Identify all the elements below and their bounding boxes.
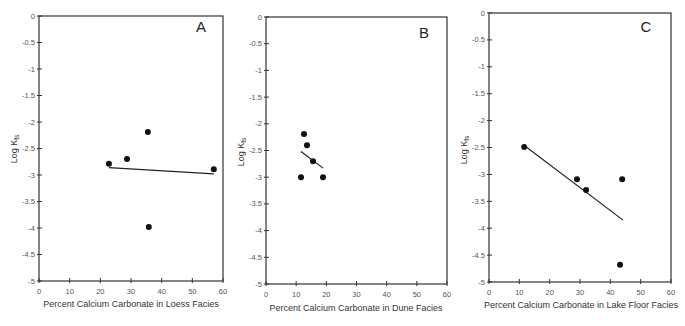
- y-tick-label: -3: [478, 170, 485, 179]
- plot-frame: [266, 17, 447, 284]
- x-tick-label: 30: [576, 288, 584, 297]
- y-tick-label: -2.5: [472, 143, 485, 152]
- chart-panel-a: A Percent Calcium Carbonate in Loess Fac…: [0, 0, 230, 326]
- data-point: [124, 156, 130, 162]
- data-point: [106, 161, 112, 167]
- chart-panel-b: B Percent Calcium Carbonate in Dune Faci…: [225, 0, 455, 326]
- y-axis-title: Log Kfs: [459, 135, 470, 164]
- x-tick-label: 60: [443, 290, 451, 299]
- y-tick-label: -4.5: [472, 251, 485, 260]
- y-tick-label: 0: [481, 9, 485, 18]
- y-tick-label: -3.5: [249, 199, 262, 208]
- data-point: [145, 129, 151, 135]
- data-point: [301, 131, 307, 137]
- x-tick-label: 20: [322, 290, 330, 299]
- x-tick-label: 0: [487, 288, 491, 297]
- y-tick-label: -3.5: [472, 197, 485, 206]
- y-tick-label: -3.5: [22, 197, 35, 206]
- data-point: [298, 174, 304, 180]
- x-tick-label: 30: [352, 290, 360, 299]
- y-tick-label: -3: [255, 173, 262, 182]
- y-tick-label: -0.5: [22, 38, 35, 47]
- chart-panel-c: C Percent Calcium Carbonate in Lake Floo…: [455, 0, 685, 326]
- y-tick-label: -4: [28, 224, 35, 233]
- panel-letter: A: [196, 18, 206, 35]
- x-tick-label: 0: [264, 290, 268, 299]
- x-tick-label: 50: [636, 288, 644, 297]
- y-tick-label: 0: [258, 13, 262, 22]
- y-tick-label: -1.5: [472, 89, 485, 98]
- x-tick-label: 40: [157, 287, 165, 296]
- x-tick-label: 0: [37, 287, 41, 296]
- x-axis-title: Percent Calcium Carbonate in Dune Facies: [269, 303, 443, 313]
- x-tick-label: 60: [667, 288, 675, 297]
- data-point: [521, 144, 527, 150]
- plot-frame: [489, 13, 671, 282]
- x-tick-label: 20: [545, 288, 553, 297]
- data-point: [310, 158, 316, 164]
- data-point: [574, 176, 580, 182]
- data-point: [146, 224, 152, 230]
- x-tick-label: 10: [292, 290, 300, 299]
- data-point: [211, 166, 217, 172]
- y-tick-label: -3: [28, 171, 35, 180]
- trendline: [109, 168, 214, 174]
- x-axis-title: Percent Calcium Carbonate in Loess Facie…: [43, 299, 219, 309]
- trendline: [527, 148, 623, 221]
- y-tick-label: -5: [28, 277, 35, 286]
- y-tick-label: -5: [255, 280, 262, 289]
- y-tick-label: -1: [478, 62, 485, 71]
- y-tick-label: -5: [478, 278, 485, 287]
- x-tick-label: 40: [382, 290, 390, 299]
- panel-letter: B: [419, 24, 429, 41]
- data-point: [320, 174, 326, 180]
- y-axis-title: Log Kfs: [236, 137, 247, 166]
- y-tick-label: -4.5: [249, 253, 262, 262]
- scatter-plot-b: B Percent Calcium Carbonate in Dune Faci…: [225, 0, 455, 326]
- x-tick-label: 20: [96, 287, 104, 296]
- plot-frame: [39, 16, 223, 281]
- panel-letter: C: [641, 18, 652, 35]
- y-tick-label: -2: [478, 116, 485, 125]
- data-point: [617, 262, 623, 268]
- y-tick-label: -4: [255, 226, 262, 235]
- y-tick-label: -0.5: [249, 39, 262, 48]
- y-axis-title: Log Kfs: [9, 134, 20, 163]
- y-tick-label: -2.5: [22, 144, 35, 153]
- x-tick-label: 50: [413, 290, 421, 299]
- y-tick-label: -1.5: [22, 91, 35, 100]
- y-tick-label: -2: [28, 118, 35, 127]
- data-point: [304, 142, 310, 148]
- data-point: [583, 187, 589, 193]
- y-tick-label: -4: [478, 224, 485, 233]
- y-tick-label: -1: [28, 65, 35, 74]
- x-tick-label: 50: [188, 287, 196, 296]
- y-tick-label: -1: [255, 66, 262, 75]
- x-tick-label: 30: [127, 287, 135, 296]
- y-tick-label: -4.5: [22, 250, 35, 259]
- y-tick-label: -0.5: [472, 35, 485, 44]
- data-point: [619, 176, 625, 182]
- x-tick-label: 10: [65, 287, 73, 296]
- x-axis-title: Percent Calcium Carbonate in Lake Floor …: [484, 300, 679, 310]
- y-tick-label: -2: [255, 119, 262, 128]
- y-tick-label: -2.5: [249, 146, 262, 155]
- x-tick-label: 10: [515, 288, 523, 297]
- scatter-plot-c: C Percent Calcium Carbonate in Lake Floo…: [455, 0, 685, 326]
- y-tick-label: -1.5: [249, 93, 262, 102]
- scatter-plot-a: A Percent Calcium Carbonate in Loess Fac…: [0, 0, 230, 326]
- y-tick-label: 0: [31, 12, 35, 21]
- x-tick-label: 40: [606, 288, 614, 297]
